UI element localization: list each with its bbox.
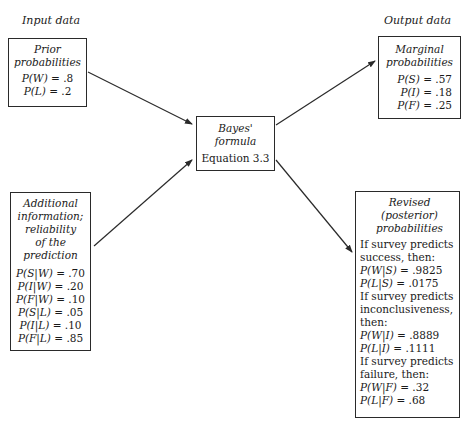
likelihood-item: P(S|W) = .70 [11, 267, 90, 280]
marginal-item: P(S) = .57 [379, 73, 452, 86]
bayes-title-line-2: formula [197, 135, 274, 148]
posterior-item: P(L|F) = .68 [360, 394, 459, 407]
condition-success-line-1: If survey predicts [360, 238, 459, 251]
likelihood-item: P(S|L) = .05 [11, 306, 90, 319]
prior-title-line-2: probabilities [9, 56, 86, 69]
bayes-title-line-1: Bayes' [197, 122, 274, 135]
likelihood-item: P(I|L) = .10 [11, 319, 90, 332]
arrow-bayes-to-revised [276, 160, 352, 252]
bayes-formula-box: Bayes' formula Equation 3.3 [196, 116, 275, 171]
prior-probabilities-box: Prior probabilities P(W) = .8 P(L) = .2 [8, 38, 87, 107]
condition-success-line-2: success, then: [360, 251, 459, 264]
revised-title-line-2: (posterior) [360, 209, 459, 222]
additional-title-line-5: prediction [11, 249, 90, 262]
condition-failure-line-1: If survey predicts [360, 355, 459, 368]
likelihood-item: P(F|W) = .10 [11, 293, 90, 306]
posterior-item: P(W|S) = .9825 [360, 264, 459, 277]
additional-title-line-2: information; [11, 210, 90, 223]
marginal-title-line-1: Marginal [379, 43, 460, 56]
marginal-probabilities-box: Marginal probabilities P(S) = .57 P(I) =… [378, 36, 461, 119]
likelihood-item: P(F|L) = .85 [11, 332, 90, 345]
equation-reference: Equation 3.3 [197, 152, 274, 165]
arrow-additional-to-bayes [94, 160, 192, 246]
condition-failure-line-2: failure, then: [360, 368, 459, 381]
additional-title-line-3: reliability [11, 223, 90, 236]
revised-title-line-3: probabilities [360, 222, 459, 235]
additional-title-line-4: of the [11, 236, 90, 249]
posterior-item: P(L|I) = .1111 [360, 342, 459, 355]
likelihood-item: P(I|W) = .20 [11, 280, 90, 293]
condition-inconclusive-line-2: inconclusiveness, [360, 303, 459, 316]
posterior-item: P(W|I) = .8889 [360, 329, 459, 342]
revised-probabilities-box: Revised (posterior) probabilities If sur… [355, 191, 460, 418]
additional-information-box: Additional information; reliability of t… [10, 192, 91, 351]
posterior-item: P(L|S) = .0175 [360, 277, 459, 290]
prior-item: P(W) = .8 [9, 72, 86, 85]
condition-inconclusive-line-3: then: [360, 316, 459, 329]
marginal-title-line-2: probabilities [379, 56, 460, 69]
prior-title-line-1: Prior [9, 43, 86, 56]
posterior-item: P(W|F) = .32 [360, 381, 459, 394]
marginal-item: P(I) = .18 [379, 86, 452, 99]
condition-inconclusive-line-1: If survey predicts [360, 290, 459, 303]
additional-title-line-1: Additional [11, 197, 90, 210]
revised-title-line-1: Revised [360, 196, 459, 209]
arrow-bayes-to-marginal [276, 61, 375, 125]
prior-item: P(L) = .2 [9, 85, 86, 98]
marginal-item: P(F) = .25 [379, 99, 452, 112]
arrow-prior-to-bayes [88, 72, 192, 124]
